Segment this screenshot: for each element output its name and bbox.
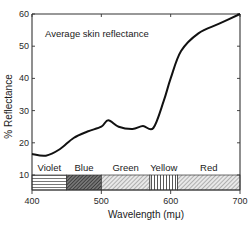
band-violet <box>32 175 67 190</box>
band-label-blue: Blue <box>74 162 93 173</box>
band-label-red: Red <box>200 162 217 173</box>
y-axis-title-text: % Reflectance <box>3 74 14 139</box>
color-bands: VioletBlueGreenYellowRed <box>32 162 240 190</box>
band-blue <box>67 175 102 190</box>
band-red <box>178 175 240 190</box>
y-tick-label: 20 <box>19 138 29 148</box>
y-tick-label: 40 <box>19 73 29 83</box>
band-label-yellow: Yellow <box>150 162 177 173</box>
y-axis-title: % Reflectance <box>3 74 14 139</box>
band-yellow <box>150 175 178 190</box>
y-tick-label: 50 <box>19 41 29 51</box>
curve-annotation: Average skin reflectance <box>45 28 149 39</box>
band-label-violet: Violet <box>38 162 62 173</box>
x-tick-label: 700 <box>232 196 247 206</box>
x-axis-title: Wavelength (mμ) <box>108 209 184 220</box>
reflectance-chart: % Reflectance VioletBlueGreenYellowRed 1… <box>0 0 252 231</box>
band-green <box>101 175 150 190</box>
band-label-green: Green <box>112 162 138 173</box>
y-tick-label: 60 <box>19 9 29 19</box>
x-tick-label: 400 <box>24 196 39 206</box>
y-tick-label: 30 <box>19 106 29 116</box>
y-tick-label: 10 <box>19 170 29 180</box>
x-tick-label: 500 <box>94 196 109 206</box>
x-tick-label: 600 <box>163 196 178 206</box>
